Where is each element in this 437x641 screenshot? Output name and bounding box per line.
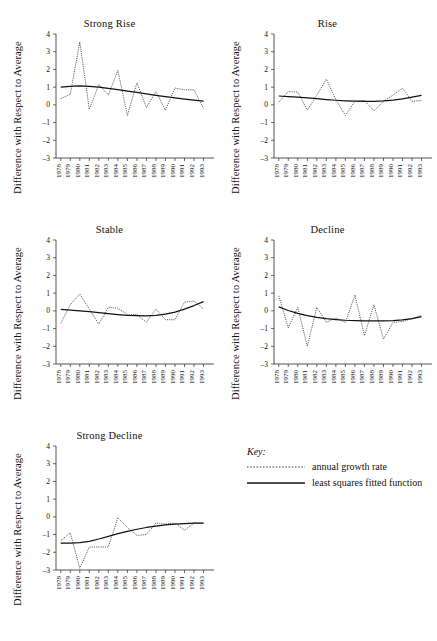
x-tick-label: 1978 [55, 370, 63, 385]
x-tick-label: 1986 [349, 164, 357, 179]
chart-panel-rise: Rise Difference with Respect to Average … [218, 18, 437, 213]
y-tick-label: –2 [260, 136, 269, 145]
x-tick-label: 1984 [112, 576, 120, 591]
y-tick-label: 3 [46, 253, 50, 262]
x-tick-label: 1982 [93, 576, 101, 591]
series-annual-growth-rate [61, 518, 204, 568]
y-tick-label: –1 [260, 324, 269, 333]
x-tick-label: 1993 [416, 370, 424, 385]
x-tick-label: 1992 [406, 370, 414, 385]
x-tick-label: 1979 [282, 370, 290, 385]
series-least-squares-fit [279, 307, 422, 321]
x-tick-label: 1989 [159, 164, 167, 179]
x-tick-label: 1983 [102, 164, 110, 179]
x-tick-label: 1985 [121, 164, 129, 179]
legend-label-annual-growth-rate: annual growth rate [312, 461, 387, 472]
plot-area-rise: 43210–1–2–319781979198019811982198319841… [218, 18, 437, 213]
y-tick-label: 2 [46, 477, 50, 486]
y-tick-label: 1 [46, 289, 50, 298]
x-tick-label: 1978 [55, 576, 63, 591]
x-tick-label: 1986 [131, 576, 139, 591]
y-tick-label: –2 [42, 342, 51, 351]
x-tick-label: 1984 [112, 370, 120, 385]
x-tick-label: 1992 [188, 370, 196, 385]
y-tick-label: –1 [260, 118, 269, 127]
x-tick-label: 1979 [64, 576, 72, 591]
chart-panel-decline: Decline Difference with Respect to Avera… [218, 224, 437, 419]
x-tick-label: 1981 [301, 164, 309, 179]
y-tick-label: –2 [260, 342, 269, 351]
x-tick-label: 1981 [83, 576, 91, 591]
x-tick-label: 1986 [349, 370, 357, 385]
x-tick-label: 1985 [339, 370, 347, 385]
multi-panel-chart-figure: Strong Rise Difference with Respect to A… [0, 0, 437, 641]
x-tick-label: 1981 [301, 370, 309, 385]
x-tick-label: 1991 [178, 164, 186, 179]
y-tick-label: 0 [264, 306, 268, 315]
y-tick-label: –2 [42, 136, 51, 145]
y-tick-label: 1 [264, 289, 268, 298]
chart-panel-strong-decline: Strong Decline Difference with Respect t… [0, 430, 219, 625]
x-tick-label: 1988 [150, 370, 158, 385]
x-tick-label: 1980 [292, 370, 300, 385]
y-tick-label: 3 [46, 459, 50, 468]
y-tick-label: –3 [42, 566, 51, 575]
x-tick-label: 1990 [169, 164, 177, 179]
y-tick-label: –2 [42, 548, 51, 557]
x-tick-label: 1992 [188, 576, 196, 591]
x-tick-label: 1985 [339, 164, 347, 179]
x-tick-label: 1993 [198, 576, 206, 591]
solid-line-icon [247, 478, 305, 488]
x-tick-label: 1988 [150, 164, 158, 179]
x-tick-label: 1983 [102, 370, 110, 385]
x-tick-label: 1992 [188, 164, 196, 179]
x-tick-label: 1989 [159, 370, 167, 385]
x-tick-label: 1987 [140, 576, 148, 591]
x-tick-label: 1991 [178, 576, 186, 591]
chart-panel-stable: Stable Difference with Respect to Averag… [0, 224, 219, 419]
y-tick-label: 3 [264, 47, 268, 56]
x-tick-label: 1978 [273, 164, 281, 179]
x-tick-label: 1979 [282, 164, 290, 179]
x-tick-label: 1991 [178, 370, 186, 385]
series-annual-growth-rate [61, 294, 204, 324]
x-tick-label: 1984 [330, 370, 338, 385]
x-tick-label: 1982 [93, 164, 101, 179]
x-tick-label: 1983 [320, 370, 328, 385]
x-tick-label: 1993 [416, 164, 424, 179]
plot-area-strong-rise: 43210–1–2–319781979198019811982198319841… [0, 18, 219, 213]
y-tick-label: 3 [46, 47, 50, 56]
y-tick-label: 4 [264, 30, 268, 39]
y-tick-label: –3 [260, 360, 269, 369]
x-tick-label: 1993 [198, 370, 206, 385]
y-tick-label: 4 [46, 30, 50, 39]
x-tick-label: 1986 [131, 370, 139, 385]
legend-label-least-squares: least squares fitted function [312, 477, 422, 488]
y-tick-label: 2 [264, 271, 268, 280]
y-tick-label: –1 [42, 118, 51, 127]
x-tick-label: 1987 [358, 164, 366, 179]
x-tick-label: 1993 [198, 164, 206, 179]
x-tick-label: 1980 [74, 164, 82, 179]
x-tick-label: 1989 [159, 576, 167, 591]
chart-panel-strong-rise: Strong Rise Difference with Respect to A… [0, 18, 219, 213]
y-tick-label: 2 [264, 65, 268, 74]
chart-legend: Key: annual growth rate least squares fi… [247, 446, 432, 493]
y-tick-label: 2 [46, 271, 50, 280]
y-tick-label: 3 [264, 253, 268, 262]
x-tick-label: 1983 [102, 576, 110, 591]
y-tick-label: 0 [46, 306, 50, 315]
x-tick-label: 1982 [311, 370, 319, 385]
y-tick-label: 4 [264, 236, 268, 245]
y-tick-label: 0 [264, 100, 268, 109]
x-tick-label: 1984 [112, 164, 120, 179]
y-tick-label: 4 [46, 442, 50, 451]
x-tick-label: 1981 [83, 164, 91, 179]
x-tick-label: 1980 [292, 164, 300, 179]
x-tick-label: 1988 [368, 370, 376, 385]
y-tick-label: 0 [46, 100, 50, 109]
x-tick-label: 1983 [320, 164, 328, 179]
x-tick-label: 1980 [74, 370, 82, 385]
x-tick-label: 1985 [121, 370, 129, 385]
x-tick-label: 1987 [358, 370, 366, 385]
